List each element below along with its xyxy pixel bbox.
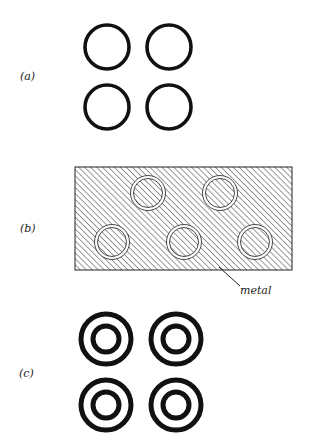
figure-canvas: (a) (b) metal (c) xyxy=(0,0,309,445)
concentric-ring-icon xyxy=(151,380,201,430)
ring-icon xyxy=(147,25,191,69)
ring-icon xyxy=(85,25,129,69)
concentric-ring-icon xyxy=(81,314,131,364)
ring-icon xyxy=(85,85,129,129)
metal-annotation: metal xyxy=(240,284,272,297)
panel-a-label: (a) xyxy=(20,70,35,83)
metal-plate xyxy=(75,167,292,270)
panel-b-label: (b) xyxy=(20,222,36,235)
concentric-ring-icon xyxy=(81,380,131,430)
concentric-ring-icon xyxy=(151,314,201,364)
ring-icon xyxy=(147,85,191,129)
panel-c: (c) xyxy=(19,314,201,430)
panel-a: (a) xyxy=(20,25,191,129)
panel-c-label: (c) xyxy=(19,367,34,380)
panel-b: (b) metal xyxy=(20,167,292,297)
